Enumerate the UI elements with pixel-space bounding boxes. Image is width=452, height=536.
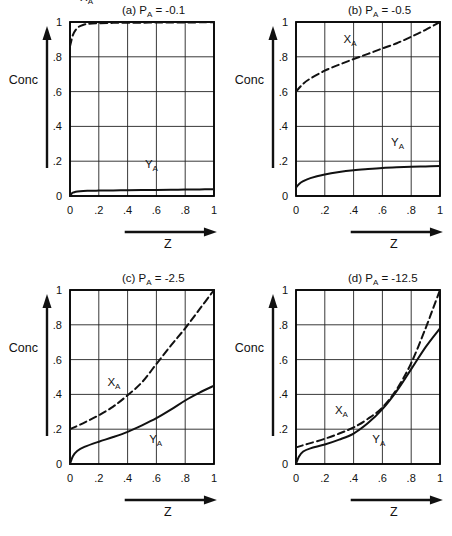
plot-frame [70, 22, 214, 196]
x-axis-arrow [351, 228, 443, 237]
x-tick-label: .8 [181, 472, 190, 484]
y-tick-label: .2 [53, 155, 62, 167]
y-axis-label: Conc [235, 73, 264, 87]
x-axis-arrow [351, 496, 443, 505]
x-tick-label: 0 [67, 472, 73, 484]
series-label-x-a: XA [80, 0, 94, 6]
series-labels: XAYA [107, 376, 162, 448]
x-axis-label: Z [164, 237, 172, 251]
series-label-x-a: XA [344, 33, 358, 48]
y-tick-label: .4 [279, 388, 288, 400]
y-axis-arrow [43, 294, 52, 436]
series-labels: XAYA [80, 0, 158, 173]
plot-curves [70, 290, 214, 464]
chart-panel-c: (c) PA = -2.50.2.4.6.810.2.4.6.81ConcZXA… [0, 268, 226, 536]
plot-frame [70, 290, 214, 464]
x-tick-label: .4 [123, 472, 132, 484]
x-tick-label: .8 [407, 204, 416, 216]
y-tick-label: .6 [279, 86, 288, 98]
chart-panel-d: (d) PA = -12.50.2.4.6.810.2.4.6.81ConcZX… [226, 268, 452, 536]
x-tick-label: .4 [349, 204, 358, 216]
y-tick-label: 1 [56, 16, 62, 28]
y-tick-label: .6 [53, 354, 62, 366]
y-tick-label: .8 [279, 51, 288, 63]
y-tick-label: .6 [53, 86, 62, 98]
x-tick-label: 0 [293, 204, 299, 216]
y-tick-label: .2 [53, 423, 62, 435]
y-axis-label: Conc [9, 341, 38, 355]
x-tick-label: .6 [378, 472, 387, 484]
series-label-y-a: YA [391, 136, 405, 151]
x-axis-arrow [125, 228, 217, 237]
x-tick-label: .6 [152, 204, 161, 216]
series-label-y-a: YA [372, 433, 386, 448]
y-axis-arrow [269, 294, 278, 436]
y-tick-label: .8 [279, 319, 288, 331]
x-tick-label: .2 [320, 472, 329, 484]
y-axis-label: Conc [235, 341, 264, 355]
y-tick-label: 0 [282, 190, 288, 202]
y-tick-label: 0 [282, 458, 288, 470]
panel-title: (a) PA = -0.1 [122, 4, 185, 19]
x-tick-label: 1 [211, 204, 217, 216]
x-tick-label: .8 [181, 204, 190, 216]
x-tick-label: 1 [437, 204, 443, 216]
x-tick-label: .2 [94, 204, 103, 216]
y-tick-label: .8 [53, 51, 62, 63]
x-axis-label: Z [390, 505, 398, 519]
x-tick-label: .8 [407, 472, 416, 484]
y-axis-ticks: 0.2.4.6.81 [279, 284, 288, 470]
y-tick-label: .4 [53, 388, 62, 400]
x-tick-label: 1 [437, 472, 443, 484]
x-axis-label: Z [164, 505, 172, 519]
x-tick-label: 0 [293, 472, 299, 484]
x-axis-ticks: 0.2.4.6.81 [293, 472, 443, 484]
panel-title: (b) PA = -0.5 [348, 4, 411, 19]
panel-title: (d) PA = -12.5 [348, 272, 418, 287]
plot-curves [296, 290, 440, 464]
y-axis-ticks: 0.2.4.6.81 [279, 16, 288, 202]
x-tick-label: 1 [211, 472, 217, 484]
y-tick-label: .8 [53, 319, 62, 331]
curve-x-a [70, 22, 214, 46]
curve-y-a [296, 166, 440, 188]
x-axis-ticks: 0.2.4.6.81 [67, 472, 217, 484]
curve-y-a [70, 189, 214, 196]
y-tick-label: 0 [56, 458, 62, 470]
panel-title: (c) PA = -2.5 [122, 272, 185, 287]
x-axis-ticks: 0.2.4.6.81 [293, 204, 443, 216]
y-axis-arrow [269, 26, 278, 168]
curve-y-a [70, 386, 214, 464]
y-tick-label: .4 [279, 120, 288, 132]
chart-panel-b: (b) PA = -0.50.2.4.6.810.2.4.6.81ConcZXA… [226, 0, 452, 268]
plot-curves [296, 22, 440, 188]
x-tick-label: 0 [67, 204, 73, 216]
x-axis-label: Z [390, 237, 398, 251]
y-axis-label: Conc [9, 73, 38, 87]
x-tick-label: .2 [320, 204, 329, 216]
y-tick-label: .6 [279, 354, 288, 366]
y-tick-label: .2 [279, 155, 288, 167]
figure-concentration-profiles: (a) PA = -0.10.2.4.6.810.2.4.6.81ConcZXA… [0, 0, 452, 536]
y-axis-arrow [43, 26, 52, 168]
plot-gridlines [70, 290, 214, 464]
plot-frame [296, 290, 440, 464]
y-axis-ticks: 0.2.4.6.81 [53, 16, 62, 202]
chart-panel-a: (a) PA = -0.10.2.4.6.810.2.4.6.81ConcZXA… [0, 0, 226, 268]
x-tick-label: .4 [349, 472, 358, 484]
x-axis-ticks: 0.2.4.6.81 [67, 204, 217, 216]
x-tick-label: .6 [378, 204, 387, 216]
series-label-x-a: XA [107, 376, 121, 391]
y-tick-label: .4 [53, 120, 62, 132]
series-label-y-a: YA [149, 433, 163, 448]
y-axis-ticks: 0.2.4.6.81 [53, 284, 62, 470]
x-tick-label: .2 [94, 472, 103, 484]
x-tick-label: .6 [152, 472, 161, 484]
x-axis-arrow [125, 496, 217, 505]
y-tick-label: 1 [282, 16, 288, 28]
y-tick-label: .2 [279, 423, 288, 435]
plot-gridlines [296, 290, 440, 464]
y-tick-label: 0 [56, 190, 62, 202]
x-tick-label: .4 [123, 204, 132, 216]
plot-curves [70, 22, 214, 196]
